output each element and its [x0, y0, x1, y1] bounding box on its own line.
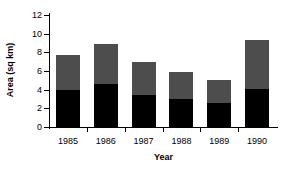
x-tick-mark	[163, 127, 164, 132]
y-tick-mark	[44, 127, 49, 128]
y-tick-label-text: 6	[22, 67, 42, 76]
bar-1989	[207, 80, 231, 127]
y-tick-label-text: 0	[22, 123, 42, 132]
plot-area	[49, 15, 276, 127]
y-axis-title: Area (sq km)	[2, 10, 18, 130]
bar-segment-lower-1986	[94, 84, 118, 127]
y-tick-label: 0	[22, 123, 42, 132]
bar-segment-upper-1986	[94, 44, 118, 84]
x-axis-title: Year	[49, 152, 278, 162]
bar-segment-lower-1985	[56, 90, 80, 127]
bar-1985	[56, 55, 80, 127]
y-tick-label: 4	[22, 86, 42, 95]
bar-segment-upper-1987	[132, 62, 156, 96]
x-axis-line	[49, 127, 278, 128]
bar-1987	[132, 62, 156, 127]
bar-1988	[169, 72, 193, 127]
bar-segment-upper-1989	[207, 80, 231, 102]
y-tick-label-text: 2	[22, 104, 42, 113]
y-tick-label: 6	[22, 67, 42, 76]
y-tick-label-text: 10	[22, 30, 42, 39]
bar-segment-upper-1985	[56, 55, 80, 90]
x-tick-label-1985: 1985	[49, 136, 87, 146]
x-tick-mark	[200, 127, 201, 132]
y-tick-label-text: 12	[22, 11, 42, 20]
x-tick-label-1986: 1986	[87, 136, 125, 146]
x-tick-label-1987: 1987	[125, 136, 163, 146]
x-tick-mark	[125, 127, 126, 132]
bar-segment-lower-1990	[245, 89, 269, 127]
bar-segment-upper-1988	[169, 72, 193, 99]
bar-segment-upper-1990	[245, 40, 269, 89]
y-tick-label-text: 4	[22, 86, 42, 95]
x-tick-label-1990: 1990	[238, 136, 276, 146]
y-tick-label-text: 8	[22, 48, 42, 57]
bar-segment-lower-1987	[132, 95, 156, 127]
x-tick-mark	[87, 127, 88, 132]
y-tick-label: 10	[22, 30, 42, 39]
x-tick-label-1988: 1988	[163, 136, 201, 146]
bar-1990	[245, 40, 269, 127]
x-tick-label-1989: 1989	[200, 136, 238, 146]
bar-1986	[94, 44, 118, 127]
y-tick-label: 2	[22, 104, 42, 113]
x-tick-mark	[238, 127, 239, 132]
y-tick-label: 12	[22, 11, 42, 20]
bar-chart: Area (sq km) 024681012 19851986198719881…	[0, 0, 291, 174]
bar-segment-lower-1989	[207, 103, 231, 127]
y-tick-label: 8	[22, 48, 42, 57]
bar-segment-lower-1988	[169, 99, 193, 127]
